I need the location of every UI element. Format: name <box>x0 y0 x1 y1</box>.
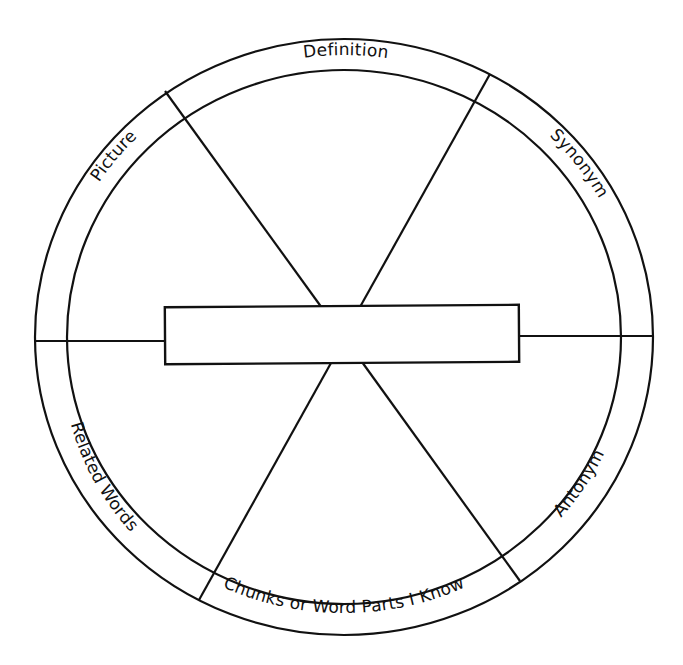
label-antonym: Antonym <box>549 446 608 521</box>
label-picture: Picture <box>86 125 141 184</box>
spoke-top-left <box>165 91 322 308</box>
center-word-box[interactable] <box>165 305 519 364</box>
label-synonym: Synonym <box>547 124 614 201</box>
label-definition: Definition <box>302 39 390 62</box>
word-wheel-diagram: Definition Synonym Picture Chunks or Wor… <box>0 0 683 665</box>
spoke-bottom-left <box>199 363 331 600</box>
spoke-top-right <box>360 74 490 307</box>
label-chunks-word-parts: Chunks or Word Parts I Know <box>221 572 467 617</box>
label-related-words-text: Related Words <box>67 419 143 535</box>
spoke-bottom-right <box>362 362 520 581</box>
